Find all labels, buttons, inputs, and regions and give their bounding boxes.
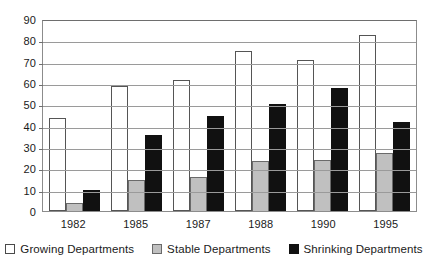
legend-item-growing[interactable]: Growing Departments: [5, 243, 134, 255]
gridline: [43, 170, 416, 171]
y-tickmark: [39, 128, 43, 129]
bar-shrinking-1988: [269, 104, 286, 211]
bar-shrinking-1982: [83, 190, 100, 211]
bar-shrinking-1987: [207, 116, 224, 211]
bar-growing-1988: [235, 51, 252, 211]
x-tick-label-1987: 1987: [167, 214, 230, 234]
y-tickmark: [39, 64, 43, 65]
bar-groups: [43, 21, 416, 211]
x-tick-label-1985: 1985: [105, 214, 168, 234]
x-tick-label-1988: 1988: [230, 214, 293, 234]
bar-group-1987: [167, 21, 229, 211]
gridline: [43, 149, 416, 150]
bar-group-bars: [43, 21, 105, 211]
bar-group-bars: [230, 21, 292, 211]
y-tick-label: 40: [0, 121, 36, 132]
legend-label: Growing Departments: [20, 243, 134, 255]
y-tickmark: [39, 170, 43, 171]
bar-group-1985: [105, 21, 167, 211]
bar-stable-1988: [252, 161, 269, 211]
gridline: [43, 128, 416, 129]
bar-stable-1990: [314, 160, 331, 211]
gridline: [43, 192, 416, 193]
legend-item-shrinking[interactable]: Shrinking Departments: [289, 243, 423, 255]
gridline: [43, 42, 416, 43]
y-tick-label: 0: [0, 207, 36, 218]
gridline: [43, 64, 416, 65]
bar-growing-1982: [49, 118, 66, 211]
legend-swatch-growing-icon: [5, 244, 15, 254]
bar-group-1988: [230, 21, 292, 211]
bar-shrinking-1985: [145, 135, 162, 211]
legend-swatch-stable-icon: [152, 244, 162, 254]
y-axis: 9080706050403020100: [0, 14, 36, 212]
x-tick-label-1990: 1990: [292, 214, 355, 234]
bar-growing-1995: [359, 35, 376, 211]
y-tick-label: 30: [0, 143, 36, 154]
legend-label: Shrinking Departments: [304, 243, 423, 255]
y-tick-label: 60: [0, 79, 36, 90]
x-axis: 198219851987198819901995: [42, 214, 417, 234]
legend-label: Stable Departments: [167, 243, 270, 255]
bar-group-bars: [354, 21, 416, 211]
chart-legend: Growing DepartmentsStable DepartmentsShr…: [0, 238, 428, 260]
bar-group-1990: [292, 21, 354, 211]
bar-group-bars: [292, 21, 354, 211]
plot-frame: [42, 20, 417, 212]
bar-group-1995: [354, 21, 416, 211]
y-tick-label: 50: [0, 100, 36, 111]
y-tick-label: 80: [0, 36, 36, 47]
y-tick-label: 70: [0, 57, 36, 68]
y-tickmark: [39, 149, 43, 150]
legend-swatch-shrinking-icon: [289, 244, 299, 254]
y-tick-label: 10: [0, 185, 36, 196]
y-tickmark: [39, 192, 43, 193]
bar-stable-1985: [128, 180, 145, 211]
plot-area: 9080706050403020100: [0, 0, 428, 222]
x-tick-label-1995: 1995: [355, 214, 418, 234]
y-tickmark: [39, 42, 43, 43]
bar-shrinking-1995: [393, 122, 410, 211]
bar-group-bars: [105, 21, 167, 211]
bar-stable-1987: [190, 177, 207, 211]
bar-growing-1990: [297, 60, 314, 211]
bar-chart: 9080706050403020100 19821985198719881990…: [0, 0, 428, 262]
y-tick-label: 20: [0, 164, 36, 175]
y-tickmark: [39, 106, 43, 107]
y-tickmark: [39, 85, 43, 86]
gridline: [43, 106, 416, 107]
x-tick-label-1982: 1982: [42, 214, 105, 234]
bar-group-1982: [43, 21, 105, 211]
gridline: [43, 85, 416, 86]
bar-stable-1995: [376, 153, 393, 211]
legend-item-stable[interactable]: Stable Departments: [152, 243, 270, 255]
y-tick-label: 90: [0, 15, 36, 26]
bar-stable-1982: [66, 203, 83, 211]
bar-group-bars: [167, 21, 229, 211]
